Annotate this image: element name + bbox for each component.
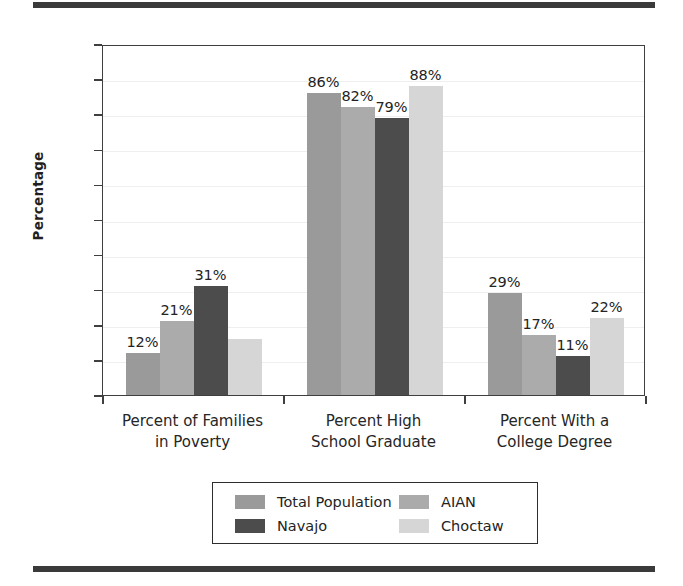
x-axis-category-label: Percent HighSchool Graduate <box>283 411 464 454</box>
y-axis-tick-mark <box>94 255 102 257</box>
x-axis-category-label: Percent of Familiesin Poverty <box>102 411 283 454</box>
bar-value-label: 21% <box>160 302 192 318</box>
bar-value-label: 86% <box>307 74 339 90</box>
bar-value-label: 82% <box>341 88 373 104</box>
x-axis-category-line: College Degree <box>464 432 645 453</box>
legend-swatch <box>399 519 429 533</box>
x-axis-tick-mark <box>283 396 285 404</box>
y-axis-tick-mark <box>94 220 102 222</box>
y-axis-tick-mark <box>94 44 102 46</box>
legend-label: Choctaw <box>441 518 504 534</box>
bar[interactable]: 88% <box>409 86 443 395</box>
y-axis-tick-mark <box>94 325 102 327</box>
bar-group: 29%17%11%22% <box>465 46 646 395</box>
bar[interactable]: 11% <box>556 356 590 395</box>
bottom-divider-rule <box>33 566 655 572</box>
bar-value-label: 29% <box>488 274 520 290</box>
legend-swatch <box>235 519 265 533</box>
x-axis-tick-mark <box>102 396 104 404</box>
bar[interactable]: 22% <box>590 318 624 395</box>
bar-value-label: 88% <box>409 67 441 83</box>
top-divider-rule <box>33 2 655 8</box>
bar[interactable]: 29% <box>488 293 522 395</box>
bar-value-label: 31% <box>194 267 226 283</box>
legend-swatch <box>399 495 429 509</box>
legend-item[interactable]: Choctaw <box>399 518 504 534</box>
bar-value-label: 11% <box>556 337 588 353</box>
legend-item[interactable]: Total Population <box>235 494 392 510</box>
x-axis-category-line: School Graduate <box>283 432 464 453</box>
x-axis-category-line: Percent High <box>283 411 464 432</box>
bar[interactable]: 12% <box>126 353 160 395</box>
y-axis-title: Percentage <box>30 136 46 256</box>
legend-item[interactable]: Navajo <box>235 518 327 534</box>
legend-item[interactable]: AIAN <box>399 494 476 510</box>
bar-group: 12%21%31% <box>103 46 284 395</box>
x-axis-category-label: Percent With aCollege Degree <box>464 411 645 454</box>
x-axis-category-line: Percent of Families <box>102 411 283 432</box>
bar[interactable]: 31% <box>194 286 228 395</box>
plot-area: 12%21%31%86%82%79%88%29%17%11%22% <box>102 45 645 396</box>
chart-legend: Total PopulationAIANNavajoChoctaw <box>212 482 538 544</box>
chart-page: Percentage 1009080706050403020100 12%21%… <box>0 0 683 586</box>
legend-label: Total Population <box>277 494 392 510</box>
legend-label: Navajo <box>277 518 327 534</box>
y-axis-tick-mark <box>94 290 102 292</box>
y-axis-tick-mark <box>94 360 102 362</box>
x-axis-category-line: Percent With a <box>464 411 645 432</box>
y-axis-tick-mark <box>94 79 102 81</box>
bar[interactable]: 86% <box>307 93 341 395</box>
bar[interactable]: 21% <box>160 321 194 395</box>
y-axis-tick-mark <box>94 150 102 152</box>
y-axis-tick-mark <box>94 185 102 187</box>
y-axis-tick-mark <box>94 395 102 397</box>
bar-value-label: 17% <box>522 316 554 332</box>
x-axis-tick-mark <box>645 396 647 404</box>
legend-label: AIAN <box>441 494 476 510</box>
bar-value-label: 12% <box>126 334 158 350</box>
y-axis-tick-mark <box>94 114 102 116</box>
bar[interactable]: 79% <box>375 118 409 395</box>
x-axis-category-line: in Poverty <box>102 432 283 453</box>
bar-value-label: 79% <box>375 99 407 115</box>
bar[interactable] <box>228 339 262 395</box>
x-axis-tick-mark <box>464 396 466 404</box>
bar-value-label: 22% <box>590 299 622 315</box>
bar[interactable]: 17% <box>522 335 556 395</box>
legend-swatch <box>235 495 265 509</box>
bar-group: 86%82%79%88% <box>284 46 465 395</box>
bar[interactable]: 82% <box>341 107 375 395</box>
